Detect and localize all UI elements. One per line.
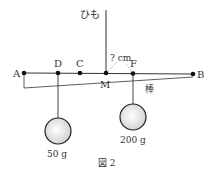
label-c: C [76,58,84,69]
unknown-distance-label: ? cm [110,53,132,63]
point-m [104,71,109,76]
label-d: D [54,58,62,69]
point-b [191,72,196,77]
point-f [131,71,136,76]
point-d [56,71,61,76]
rod-line [24,73,193,74]
weight-200g-label: 200 g [120,135,146,145]
weight-50g-label: 50 g [47,149,67,159]
label-b: B [197,69,204,80]
weight-200g-ball [120,104,146,130]
label-a: A [12,68,21,79]
rod-label: 棒 [145,83,154,94]
string-label: ひも [80,9,100,20]
label-f: F [130,58,137,69]
weight-50g-ball [45,118,71,144]
lever-diagram: ひも 棒 ? cm A D C M F B 50 g 200 g 図 2 [0,0,213,177]
point-c [78,71,83,76]
point-a [22,71,27,76]
dimension-line-m [106,62,117,73]
figure-caption: 図 2 [98,158,116,168]
label-m: M [100,79,110,90]
